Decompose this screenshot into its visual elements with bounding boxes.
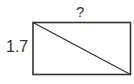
top-side-label: ? <box>76 4 84 19</box>
rectangle-diagram: ? 1.7 <box>0 0 134 84</box>
left-side-label: 1.7 <box>6 39 28 55</box>
diagonal-line <box>33 23 131 75</box>
